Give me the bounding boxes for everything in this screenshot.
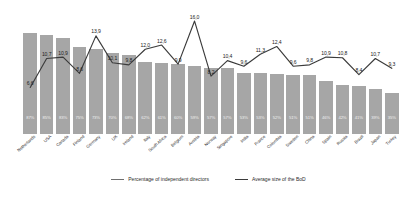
line-value-label: 10,7 (42, 51, 52, 57)
x-tick-canada: Canada (55, 134, 69, 148)
line-value-label: 8,4 (356, 67, 363, 73)
legend-label-independent-directors: Percentage of independent directors (128, 176, 209, 182)
line-value-label: 10,8 (338, 50, 348, 56)
line-value-label: 9,9 (175, 57, 182, 63)
line-value-label: 12,0 (140, 42, 150, 48)
x-tick-usa: USA (43, 134, 53, 144)
x-tick-germany: Germany (86, 134, 102, 149)
x-tick-sweden: Sweden (284, 134, 299, 148)
x-tick-colombia: Colombia (266, 134, 283, 150)
line-value-label: 9,8 (125, 57, 132, 63)
line-value-label: 10,1 (108, 55, 118, 61)
x-tick-austria: Austria (187, 134, 200, 146)
line-value-label: 11,3 (256, 47, 265, 53)
x-tick-italy: Italy (142, 134, 151, 143)
legend-label-average-bod: Average size of the BoD (252, 176, 306, 182)
chart-container: 87%85%83%75%73%70%68%62%61%60%59%57%57%5… (0, 0, 417, 199)
line-value-label: 9,6 (240, 59, 247, 65)
x-tick-netherlands: Netherlands (16, 134, 36, 153)
x-tick-russia: Russia (335, 134, 348, 146)
x-tick-turkey: Turkey (385, 134, 398, 146)
line-value-label: 9,8 (306, 57, 313, 63)
line-value-label: 9,3 (388, 61, 395, 67)
line-value-label: 12,4 (272, 39, 282, 45)
x-tick-uk: UK (111, 134, 119, 142)
x-tick-singapore: Singapore (216, 134, 234, 151)
x-tick-france: France (253, 134, 266, 146)
x-tick-india: India (240, 134, 250, 144)
line-value-label: 9,6 (290, 59, 297, 65)
line-value-label: 8,6 (76, 66, 83, 72)
legend-swatch-line-icon (235, 179, 248, 180)
x-tick-china: China (304, 134, 316, 145)
line-value-label: 8,2 (208, 69, 215, 75)
line-value-label: 10,9 (58, 50, 68, 56)
x-tick-norway: Norway (203, 134, 217, 147)
x-tick-ireland: Ireland (122, 134, 135, 146)
legend-swatch-bar-icon (111, 179, 124, 180)
line-value-label: 13,9 (91, 28, 101, 34)
x-tick-finland: Finland (72, 134, 86, 147)
x-tick-japan: Japan (369, 134, 381, 145)
line-value-label: 10,7 (371, 51, 381, 57)
chart-legend: Percentage of independent directors Aver… (0, 176, 417, 182)
line-value-label: 10,4 (223, 53, 233, 59)
line-value-label: 12,6 (157, 38, 167, 44)
legend-item-average-bod: Average size of the BoD (235, 176, 306, 182)
line-value-label: 6,6 (27, 80, 34, 86)
legend-item-independent-directors: Percentage of independent directors (111, 176, 209, 182)
line-value-label: 10,9 (321, 50, 331, 56)
x-tick-brazil: Brazil (354, 134, 365, 145)
x-tick-belgium: Belgium (169, 134, 184, 148)
line-value-label: 16,0 (190, 14, 200, 20)
x-axis-labels: NetherlandsUSACanadaFinlandGermanyUKIrel… (22, 134, 400, 170)
x-tick-spain: Spain (321, 134, 332, 145)
